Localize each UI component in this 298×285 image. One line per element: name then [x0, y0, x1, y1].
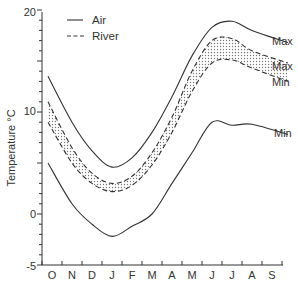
legend-air-label: Air: [92, 14, 106, 26]
river-min-label: Min: [272, 76, 290, 88]
air-max-line: [48, 21, 288, 167]
month-label: M: [187, 269, 196, 281]
month-label: D: [88, 269, 96, 281]
ytick-label-0: 0: [30, 208, 36, 220]
y-axis: [37, 10, 42, 265]
ytick-label-10: 10: [24, 105, 36, 117]
month-label: N: [68, 269, 76, 281]
month-label: J: [109, 269, 115, 281]
month-label: M: [147, 269, 156, 281]
month-label: F: [129, 269, 136, 281]
legend: Air River: [67, 14, 119, 42]
x-axis: [42, 261, 283, 265]
air-min-label: Min: [274, 127, 292, 139]
month-label: J: [209, 269, 215, 281]
temperature-chart: 20 10 0 -5 Temperature °C ONDJFMAMJJAS M…: [0, 0, 298, 285]
month-label: A: [248, 269, 256, 281]
month-label: S: [268, 269, 275, 281]
y-axis-label: Temperature °C: [5, 109, 17, 186]
legend-river-label: River: [92, 30, 119, 42]
month-label: O: [48, 269, 57, 281]
river-range-band: [48, 37, 288, 192]
river-max-label: Max: [272, 60, 293, 72]
air-max-label: Max: [272, 35, 293, 47]
ytick-label-20: 20: [24, 6, 36, 18]
ytick-label-minus5: -5: [26, 260, 36, 272]
month-label: A: [168, 269, 176, 281]
month-label: J: [229, 269, 235, 281]
x-tick-labels: ONDJFMAMJJAS: [48, 269, 276, 281]
